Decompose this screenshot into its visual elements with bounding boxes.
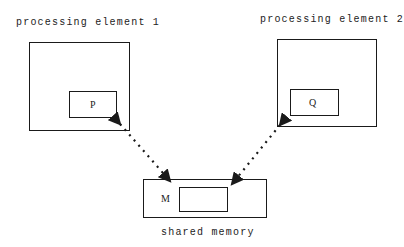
arrow-pe1-memory xyxy=(120,124,170,181)
arrow-pe2-memory xyxy=(232,125,280,184)
